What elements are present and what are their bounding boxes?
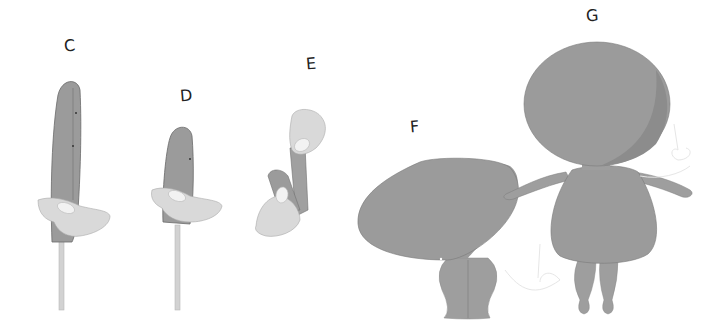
puppet-d-illustration	[151, 127, 222, 310]
illustration-canvas	[0, 0, 726, 329]
puppet-f-illustration	[358, 158, 560, 319]
puppet-g-illustration	[504, 42, 692, 314]
puppet-e-illustration	[255, 109, 325, 236]
puppet-c-illustration	[38, 82, 110, 310]
